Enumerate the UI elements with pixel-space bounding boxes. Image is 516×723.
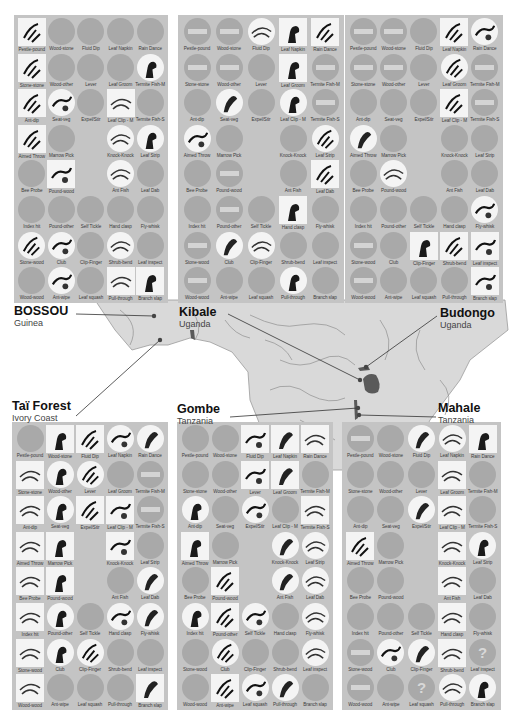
behavior-label: Leaf Clip - M [439, 525, 464, 530]
present-circle-icon [47, 461, 74, 488]
behavior-cell: Termite Fish-M [300, 461, 330, 497]
behavior-cell: Seat-veg [213, 89, 245, 125]
customary-square-icon [301, 496, 329, 524]
behavior-cell: Aimed Throw [17, 125, 47, 161]
behavior-label: Stone-stone [18, 490, 42, 495]
behavior-cell: ?Leaf squash [406, 674, 437, 710]
absent-circle-icon [182, 425, 209, 452]
behavior-label: Termite Fish-M [300, 489, 330, 494]
behavior-cell: Clip-Finger [406, 639, 437, 675]
behavior-label: Clip-Finger [411, 667, 433, 672]
empty-slot [77, 567, 104, 594]
behavior-label: Ant-dip [23, 525, 37, 530]
absent-circle-icon [469, 496, 496, 523]
behavior-cell: Knock-Knock [437, 532, 468, 568]
behavior-cell: Leaf Napkin [106, 18, 136, 54]
absent-circle-icon [77, 603, 104, 630]
empty-slot [248, 125, 275, 152]
behavior-cell: Fluid Dip [75, 425, 105, 461]
absent-circle-icon [441, 125, 468, 152]
behavior-label: Pound-other [217, 224, 242, 229]
absent-circle-icon [350, 89, 377, 116]
behavior-cell: Leaf Napkin [437, 425, 468, 461]
absent-circle-icon [347, 603, 374, 630]
behavior-cell: Leaf Clip - M [270, 496, 300, 532]
behavior-cell: Leaf Clip - M [106, 89, 136, 125]
behavior-cell [76, 125, 106, 161]
present-circle-icon [137, 125, 164, 152]
customary-square-icon [16, 639, 44, 667]
behavior-label: Leaf Napkin [108, 453, 132, 458]
behavior-cell: Leaf Groom [270, 461, 300, 497]
customary-square-icon [181, 532, 209, 560]
behavior-cell: Marrow Pick [376, 532, 407, 568]
behavior-label: Lever [416, 489, 427, 494]
behavior-cell: Pull-through [439, 267, 469, 303]
site-label-gombe: GombeTanzania [177, 403, 220, 426]
present-circle-icon [408, 496, 435, 523]
behavior-cell: Index hit [180, 603, 210, 639]
absent-circle-icon [107, 674, 134, 701]
behavior-cell: Aimed Throw [348, 125, 378, 161]
behavior-cell: Self Tickle [76, 196, 106, 232]
behavior-cell: Marrow Pick [47, 125, 77, 161]
behavior-label: Wood-stone [379, 453, 403, 458]
empty-slot [410, 125, 437, 152]
behavior-cell: Ant Fish [105, 567, 135, 603]
customary-square-icon [46, 532, 74, 560]
behavior-cell: Ant Fish [277, 160, 309, 196]
absent-circle-icon [48, 54, 75, 81]
present-circle-icon [312, 125, 339, 152]
behavior-label: Leaf Clip - M [107, 525, 132, 530]
absent-circle-icon [184, 160, 211, 187]
behavior-cell [75, 532, 105, 568]
behavior-cell: Shrub-bend [277, 232, 309, 268]
behavior-label: Bee Probe [186, 188, 207, 193]
absent-circle-icon [410, 267, 437, 294]
absent-circle-icon [77, 232, 104, 259]
behavior-label: Aimed Throw [184, 153, 210, 158]
customary-square-icon [211, 567, 239, 595]
behavior-cell: Fly-whisk [470, 196, 500, 232]
behavior-label: Pull-through [281, 295, 305, 300]
behavior-cell: Termite Fish-S [135, 496, 165, 532]
behavior-cell: Leaf Groom [437, 461, 468, 497]
behavior-cell: Wood-other [45, 461, 75, 497]
present-circle-icon [302, 639, 329, 666]
absent-circle-icon [410, 54, 437, 81]
behavior-cell: Leaf squash [240, 674, 270, 710]
empty-slot [77, 532, 104, 559]
behavior-cell: Shrub-bend [439, 232, 469, 268]
site-name: Mahale [438, 402, 480, 415]
behavior-cell: Pound-other [47, 196, 77, 232]
behavior-cell: Ant-dip [15, 496, 45, 532]
behavior-label: Pestle-pound [350, 46, 376, 51]
absent-ecological-icon [216, 196, 243, 223]
customary-square-icon [311, 18, 339, 46]
behavior-cell: Pound-wood [45, 567, 75, 603]
absent-circle-icon [107, 461, 134, 488]
behavior-cell: Hand clasp [437, 603, 468, 639]
behavior-label: Leaf Strip [305, 560, 324, 565]
behavior-label: Termite Fish-S [136, 117, 165, 122]
behavior-cell: Leaf inspect [300, 639, 330, 675]
behavior-cell: Rain Dance [300, 425, 330, 461]
behavior-label: Seat-veg [385, 117, 403, 122]
behavior-cell: Stone-stone [17, 54, 47, 90]
behavior-label: Pestle-pound [182, 453, 208, 458]
present-circle-icon [137, 567, 164, 594]
behavior-label: Club [389, 260, 398, 265]
behavior-cell: Rain Dance [309, 18, 341, 54]
customary-square-icon [136, 674, 164, 702]
absent-circle-icon [107, 18, 134, 45]
behavior-label: Fluid Dip [81, 454, 99, 459]
behavior-label: Leaf Napkin [109, 46, 133, 51]
customary-square-icon [440, 18, 468, 46]
empty-slot [77, 160, 104, 187]
behavior-cell: Knock-Knock [270, 532, 300, 568]
present-circle-icon [280, 89, 307, 116]
behavior-label: Ant-dip [190, 117, 204, 122]
behavior-label: Ant Fish [277, 595, 293, 600]
behavior-cell: Club [47, 232, 77, 268]
behavior-cell: Leaf Groom [277, 54, 309, 90]
